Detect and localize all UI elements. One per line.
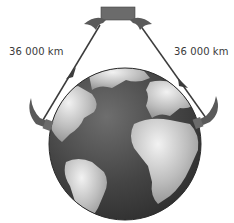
satellite-body (101, 7, 135, 20)
uplink-distance-label: 36 000 km (9, 46, 64, 57)
ground-station-left-icon (29, 98, 53, 131)
uplink-arrowhead (66, 67, 76, 79)
satellite-diagram: 36 000 km 36 000 km (0, 0, 234, 223)
downlink-arrowhead (178, 78, 188, 88)
ground-station-right-icon (193, 96, 218, 129)
satellite-dish-left-icon (84, 18, 106, 30)
satellite (84, 7, 152, 30)
diagram-canvas (0, 0, 234, 223)
downlink-distance-label: 36 000 km (174, 46, 229, 57)
earth-globe (49, 65, 204, 222)
satellite-dish-right-icon (130, 18, 152, 30)
